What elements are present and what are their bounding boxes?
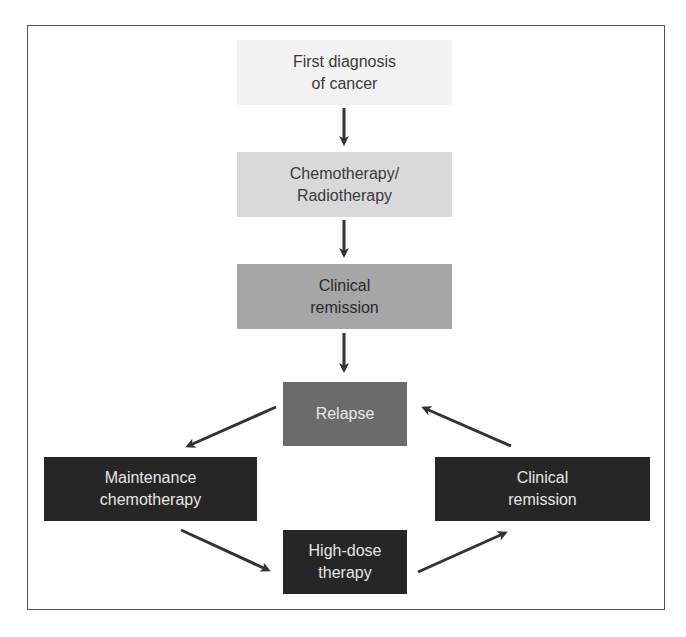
arrow-highdose-to-remission bbox=[418, 533, 505, 572]
arrow-remission-to-relapse-loop bbox=[424, 408, 511, 446]
arrow-relapse-to-maintenance bbox=[188, 407, 276, 446]
arrows-layer bbox=[0, 0, 686, 637]
arrow-maintenance-to-highdose bbox=[181, 530, 268, 570]
